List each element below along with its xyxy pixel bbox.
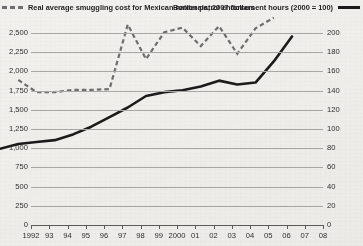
y-tick-label-right: 180 [327,48,361,56]
y-tick-label-left: 250 [0,202,28,210]
x-tick-mark [287,225,288,229]
x-tick-mark [49,225,50,229]
x-tick-mark [122,225,123,229]
y-tick-label-left: 1,500 [0,106,28,114]
x-tick-label: 08 [309,231,337,240]
x-tick-mark [268,225,269,229]
y-tick-label-left: 2,500 [0,29,28,37]
y-tick-label-left: 1,000 [0,144,28,152]
y-tick-label-left: 0 [0,221,28,229]
x-tick-mark [86,225,87,229]
gridline [31,110,323,111]
x-tick-mark [232,225,233,229]
legend-border-patrol: Border patrol enforcement hours (2000 = … [173,3,360,12]
gridline [31,187,323,188]
plot-area [31,33,323,225]
y-tick-label-left: 500 [0,183,28,191]
x-tick-mark [214,225,215,229]
x-tick-mark [141,225,142,229]
y-tick-label-right: 120 [327,106,361,114]
gridline [31,33,323,34]
y-tick-label-right: 80 [327,144,361,152]
gridline [31,129,323,130]
y-tick-label-left: 2,250 [0,48,28,56]
y-tick-label-right: 60 [327,163,361,171]
gridline [31,167,323,168]
y-tick-label-right: 20 [327,202,361,210]
x-tick-mark [195,225,196,229]
x-tick-mark [323,225,324,229]
x-tick-mark [177,225,178,229]
x-tick-mark [104,225,105,229]
solid-line-swatch-icon [338,6,360,9]
y-tick-label-right: 100 [327,125,361,133]
y-tick-label-left: 1,750 [0,87,28,95]
y-tick-label-right: 200 [327,29,361,37]
gridline [31,206,323,207]
gridline [31,91,323,92]
y-tick-label-left: 1,250 [0,125,28,133]
x-tick-mark [250,225,251,229]
gridline [31,148,323,149]
y-tick-label-right: 140 [327,87,361,95]
legend-label-border-patrol: Border patrol enforcement hours (2000 = … [173,3,333,12]
y-tick-label-right: 0 [327,221,361,229]
y-tick-label-left: 750 [0,163,28,171]
gridline [31,52,323,53]
chart-root: Real average smuggling cost for Mexican … [0,0,363,246]
gridlines [31,33,323,225]
y-tick-label-right: 40 [327,183,361,191]
x-tick-mark [305,225,306,229]
x-tick-mark [159,225,160,229]
y-tick-label-left: 2,000 [0,67,28,75]
x-tick-mark [31,225,32,229]
x-tick-mark [68,225,69,229]
y-tick-label-right: 160 [327,67,361,75]
gridline [31,71,323,72]
dashed-line-swatch-icon [2,6,24,9]
